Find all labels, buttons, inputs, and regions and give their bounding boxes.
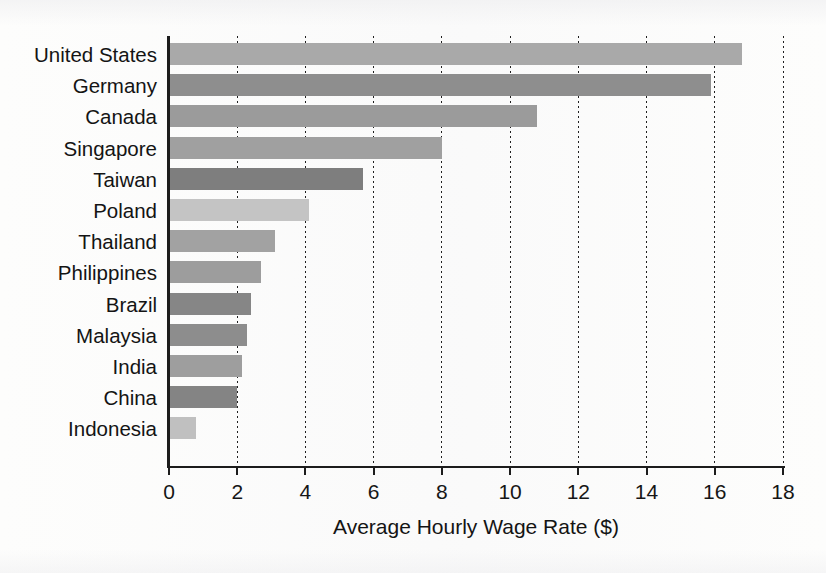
bar (169, 168, 363, 190)
x-axis-tick (168, 466, 170, 475)
x-axis-tick (441, 466, 443, 475)
y-axis-category-label: Germany (0, 74, 157, 98)
bar (169, 230, 275, 252)
x-axis-tick (509, 466, 511, 475)
gridline (714, 36, 715, 466)
bar (169, 386, 237, 408)
bar (169, 417, 196, 439)
bar (169, 199, 309, 221)
x-axis-title: Average Hourly Wage Rate ($) (167, 514, 785, 540)
bar (169, 261, 261, 283)
gridline (441, 36, 442, 466)
x-axis-tick-label: 18 (753, 479, 813, 505)
y-axis-category-label: Indonesia (0, 417, 157, 441)
x-axis-tick-label: 16 (685, 479, 745, 505)
bar-chart: United StatesGermanyCanadaSingaporeTaiwa… (0, 0, 826, 573)
x-axis-tick-label: 8 (412, 479, 472, 505)
bar (169, 74, 711, 96)
x-axis-tick (646, 466, 648, 475)
y-axis-category-label: Thailand (0, 230, 157, 254)
x-axis-tick (373, 466, 375, 475)
x-axis-tick-label: 6 (344, 479, 404, 505)
x-axis-tick-label: 10 (480, 479, 540, 505)
gridline (783, 36, 784, 466)
y-axis-category-label: Taiwan (0, 168, 157, 192)
gridline (305, 36, 306, 466)
x-axis-tick-label: 12 (548, 479, 608, 505)
y-axis-category-label: Philippines (0, 261, 157, 285)
y-axis-category-label: China (0, 386, 157, 410)
chart-page: United StatesGermanyCanadaSingaporeTaiwa… (0, 0, 826, 573)
gridline (646, 36, 647, 466)
x-axis-tick-label: 2 (207, 479, 267, 505)
x-axis-tick-label: 14 (617, 479, 677, 505)
x-axis-tick-label: 0 (139, 479, 199, 505)
bar (169, 324, 247, 346)
y-axis-line (167, 36, 170, 466)
y-axis-category-label: Singapore (0, 137, 157, 161)
bar (169, 355, 242, 377)
x-axis-tick-label: 4 (275, 479, 335, 505)
gridline (578, 36, 579, 466)
bar (169, 105, 537, 127)
x-axis-tick (236, 466, 238, 475)
y-axis-category-label: Canada (0, 105, 157, 129)
y-axis-category-label: Malaysia (0, 324, 157, 348)
gridline (373, 36, 374, 466)
gridline (510, 36, 511, 466)
x-axis-tick (782, 466, 784, 475)
bar (169, 43, 742, 65)
y-axis-category-label: India (0, 355, 157, 379)
y-axis-category-label: Brazil (0, 293, 157, 317)
y-axis-category-label: United States (0, 43, 157, 67)
x-axis-tick (304, 466, 306, 475)
bar (169, 293, 251, 315)
x-axis-tick (577, 466, 579, 475)
bar (169, 137, 442, 159)
y-axis-category-label: Poland (0, 199, 157, 223)
x-axis-line (167, 466, 785, 468)
x-axis-tick (714, 466, 716, 475)
